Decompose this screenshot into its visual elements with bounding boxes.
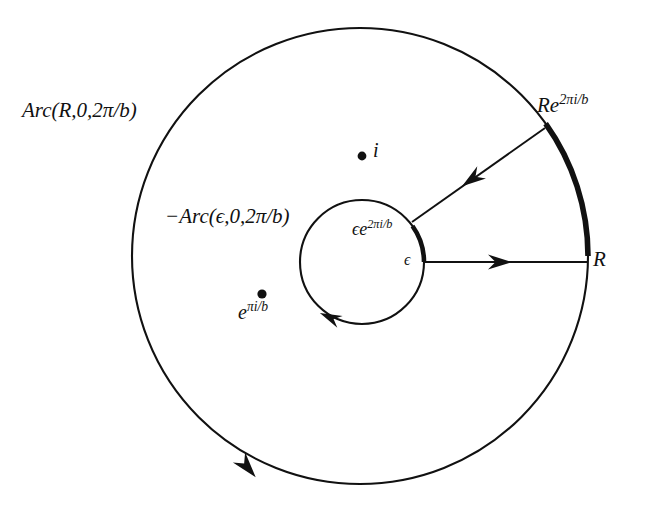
label-inner-arc: −Arc(ϵ,0,2π/b) bbox=[165, 206, 290, 227]
label-outer-endpoint: Re2πi/b bbox=[537, 92, 589, 116]
contour-diagram: Arc(R,0,2π/b) −Arc(ϵ,0,2π/b) Re2πi/b R ϵ… bbox=[0, 0, 651, 522]
label-pole-e: eπi/b bbox=[238, 300, 268, 322]
label-pole-e-exponent: πi/b bbox=[247, 299, 268, 314]
label-inner-radius: ϵ bbox=[404, 252, 410, 268]
inner-circle-arrowhead-icon bbox=[317, 307, 342, 328]
label-outer-radius: R bbox=[593, 249, 606, 270]
contour-diagram-svg bbox=[0, 0, 651, 522]
label-pole-i: i bbox=[373, 140, 379, 160]
label-inner-endpoint-base: ϵe bbox=[352, 219, 367, 239]
label-outer-endpoint-base: Re bbox=[537, 93, 559, 117]
label-inner-endpoint-exponent: 2πi/b bbox=[367, 217, 392, 231]
label-outer-arc: Arc(R,0,2π/b) bbox=[22, 100, 137, 121]
outer-circle-thin-arc bbox=[132, 28, 588, 484]
label-pole-e-base: e bbox=[238, 301, 247, 323]
point-marker-i bbox=[358, 152, 367, 161]
label-inner-endpoint: ϵe2πi/b bbox=[352, 218, 392, 238]
inner-circle-thick-arc bbox=[412, 226, 424, 262]
outer-circle-arrowhead-icon bbox=[233, 452, 262, 482]
outer-circle-thick-arc bbox=[546, 124, 588, 256]
point-marker-e-pi-i-over-b bbox=[257, 289, 266, 298]
inward-ray-arrowhead-icon bbox=[458, 166, 486, 192]
label-outer-endpoint-exponent: 2πi/b bbox=[559, 91, 588, 107]
inward-radial-ray bbox=[412, 128, 545, 222]
